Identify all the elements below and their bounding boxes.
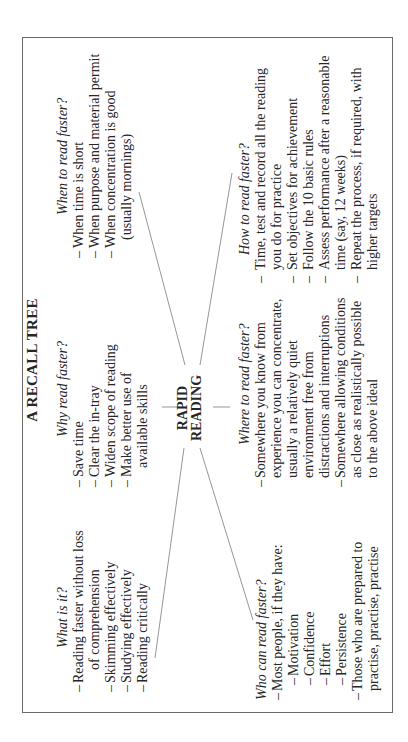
item-text: Somewhere you know from — [253, 322, 268, 478]
bullet-dash: – — [270, 693, 286, 700]
branch-list-item: –Studying effectively — [119, 539, 135, 692]
bullet-dash: – — [285, 276, 301, 283]
item-text: Somewhere allowing conditions — [333, 298, 348, 478]
branch-list-item-continuation: available skills — [135, 354, 151, 487]
bullet-dash: – — [350, 693, 366, 700]
branch-list-item: –When purpose and material permit — [87, 64, 103, 258]
item-text: Widen scope of reading — [103, 344, 118, 477]
item-text: Reading critically — [135, 583, 150, 683]
branch-list-item-continuation: higher targets — [365, 68, 381, 283]
item-text: Skimming effectively — [103, 562, 118, 683]
branch-heading: What is it? — [55, 495, 71, 648]
branch-list-item: –Reading faster without loss — [71, 539, 87, 692]
item-text: Save time — [71, 421, 86, 477]
branch-list-item: –Persistence — [334, 551, 350, 700]
item-text: usually a relatively quiet — [285, 340, 300, 478]
item-text: time (say, 12 weeks) — [333, 155, 348, 270]
item-text: available skills — [135, 384, 150, 468]
branch-list-item: –Make better use of — [119, 354, 135, 487]
branch-list-item: –Save time — [71, 354, 87, 487]
bullet-dash: – — [71, 251, 87, 258]
item-text: When time is short — [71, 142, 86, 248]
branch-who: Who can read faster? –Most people, if th… — [254, 551, 382, 700]
bullet-dash: – — [103, 480, 119, 487]
branch-list-item: –Time, test and record all the reading — [253, 68, 269, 283]
branch-list-item-continuation: (usually mornings) — [119, 64, 135, 258]
branch-list-item: –When time is short — [71, 64, 87, 258]
bullet-dash: – — [286, 678, 302, 685]
branch-heading: When to read faster? — [55, 21, 71, 215]
bullet-dash: – — [253, 276, 269, 283]
central-node-line1: RAPID — [176, 370, 190, 446]
branch-list-item: –Skimming effectively — [103, 539, 119, 692]
item-text: Effort — [318, 643, 333, 676]
item-text: Time, test and record all the reading — [253, 68, 268, 270]
branch-list-item: –Set objectives for achievement — [285, 68, 301, 283]
item-text: of comprehension — [87, 569, 102, 670]
item-text: higher targets — [365, 194, 380, 270]
connector-when — [139, 192, 185, 365]
item-text: (usually mornings) — [119, 134, 134, 240]
branch-list-item: –Repeat the process, if required, with — [349, 68, 365, 283]
bullet-dash: – — [103, 685, 119, 692]
branch-list-item-continuation: experience you can concentrate, — [269, 307, 285, 487]
branch-list-item: –Clear the in-tray — [87, 354, 103, 487]
bullet-dash: – — [87, 480, 103, 487]
branch-list-item-continuation: time (say, 12 weeks) — [333, 68, 349, 283]
branch-how: How to read faster? –Time, test and reco… — [237, 68, 381, 283]
branch-when: When to read faster? –When time is short… — [55, 64, 135, 258]
central-node: RAPID READING — [176, 370, 204, 446]
item-text: Assess performance after a reasonable — [317, 55, 332, 270]
branch-list-item-continuation: of comprehension — [87, 539, 103, 692]
branch-list-item: –Somewhere allowing conditions — [333, 307, 349, 487]
item-text: Motivation — [286, 614, 301, 676]
item-text: Persistence — [334, 613, 349, 676]
item-text: When concentration is good — [103, 91, 118, 248]
branch-list-item: –Most people, if they have: — [270, 551, 286, 700]
bullet-dash: – — [87, 251, 103, 258]
bullet-dash: – — [71, 685, 87, 692]
branch-list-item: –Assess performance after a reasonable — [317, 68, 333, 283]
branch-list-item: –Motivation — [286, 551, 302, 700]
item-text: distractions and interruptions — [317, 315, 332, 478]
branch-where: Where to read faster? –Somewhere you kno… — [237, 307, 381, 487]
item-text: Set objectives for achievement — [285, 98, 300, 270]
bullet-dash: – — [349, 276, 365, 283]
branch-list-item: –Confidence — [302, 551, 318, 700]
bullet-dash: – — [135, 685, 151, 692]
central-node-line2: READING — [190, 370, 204, 446]
item-text: Those who are prepared to — [350, 542, 365, 691]
branch-list-item-continuation: environment free from — [301, 307, 317, 487]
bullet-dash: – — [119, 685, 135, 692]
branch-list-item: –Widen scope of reading — [103, 354, 119, 487]
item-text: When purpose and material permit — [87, 54, 102, 248]
bullet-dash: – — [333, 480, 349, 487]
branch-list-item-continuation: distractions and interruptions — [317, 307, 333, 487]
branch-list-item: –Reading critically — [135, 539, 151, 692]
branch-list-item-continuation: as close as realistically possible — [349, 307, 365, 487]
item-text: experience you can concentrate, — [269, 298, 284, 478]
branch-heading: Where to read faster? — [237, 265, 253, 445]
branch-list-item-continuation: practise, practise, practise — [366, 551, 382, 700]
item-text: environment free from — [301, 351, 316, 478]
bullet-dash: – — [318, 678, 334, 685]
branch-heading: Why read faster? — [55, 304, 71, 437]
bullet-dash: – — [317, 276, 333, 283]
bullet-dash: – — [119, 480, 135, 487]
branch-list-item: –Somewhere you know from — [253, 307, 269, 487]
branch-heading: How to read faster? — [237, 40, 253, 255]
item-text: Make better use of — [119, 372, 134, 477]
branch-heading: Who can read faster? — [254, 551, 270, 700]
item-text: you do for practice — [269, 164, 284, 270]
branch-list-item: –Follow the 10 basic rules — [301, 68, 317, 283]
rotated-page: A RECALL TREE RAPID READING What is it? … — [0, 0, 408, 742]
branch-list-item-continuation: to the above ideal — [365, 307, 381, 487]
item-text: practise, practise, practise — [366, 546, 381, 691]
bullet-dash: – — [334, 678, 350, 685]
connector-what — [155, 448, 184, 658]
item-text: Follow the 10 basic rules — [301, 129, 316, 270]
branch-list-item-continuation: usually a relatively quiet — [285, 307, 301, 487]
branch-what: What is it? –Reading faster without loss… — [55, 539, 151, 692]
bullet-dash: – — [71, 480, 87, 487]
branch-why: Why read faster? –Save time–Clear the in… — [55, 354, 151, 487]
